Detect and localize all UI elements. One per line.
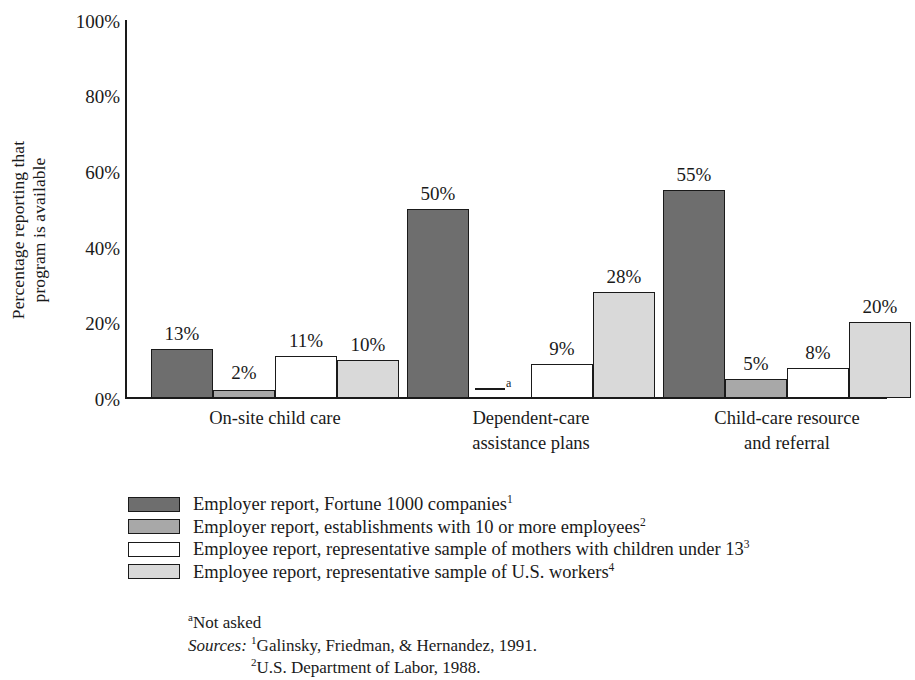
legend-swatch-series-0 [128,497,180,512]
bar-label-g0-s0: 13% [141,324,223,343]
bar-label-g0-s1: 2% [203,363,285,382]
category-2-line-2: and referral [649,431,915,456]
legend-swatch-series-1 [128,519,180,534]
y-tick-0: 0% [4,390,120,409]
legend-label-series-2-text: Employee report, representative sample o… [193,539,744,559]
legend-item-employer-establishments: Employer report, establishments with 10 … [128,516,888,539]
not-asked-superscript: a [506,377,511,389]
footnote-sources-line-1: Sources: 1Galinsky, Friedman, & Hernande… [188,635,888,658]
legend-superscript-series-3: 4 [609,561,615,573]
legend-superscript-series-0: 1 [507,493,513,505]
bar-label-g2-s2: 8% [777,343,859,362]
y-tick-100: 100% [4,12,120,31]
bar-g0-s1 [213,390,275,398]
footnote-source-2-text: U.S. Department of Labor, 1988. [257,658,481,677]
chart-footnotes: aNot asked Sources: 1Galinsky, Friedman,… [188,612,888,680]
footnote-source-1-text: Galinsky, Friedman, & Hernandez, 1991. [257,636,537,655]
y-tick-80: 80% [4,87,120,106]
bar-g0-s3 [337,360,399,398]
bar-g1-s2 [531,364,593,398]
y-tick-20: 20% [4,314,120,333]
not-asked-rule [475,388,505,390]
legend-label-series-3-text: Employee report, representative sample o… [193,562,609,582]
bar-label-g1-s3: 28% [583,267,665,286]
category-1-line-1: Dependent-care [393,406,669,431]
chart-legend: Employer report, Fortune 1000 companies1… [128,493,888,583]
legend-label-series-0: Employer report, Fortune 1000 companies1 [193,494,513,514]
bar-label-g2-s0: 55% [653,165,735,184]
category-label-dependent-care-assistance-plans: Dependent-care assistance plans [393,406,669,456]
bar-label-g0-s3: 10% [327,335,409,354]
footnote-not-asked-text: Not asked [193,613,261,632]
legend-swatch-series-3 [128,564,180,579]
legend-item-employee-us-workers: Employee report, representative sample o… [128,561,888,584]
footnote-sources-label: Sources: [188,636,247,655]
legend-superscript-series-2: 3 [744,538,750,550]
bar-g1-s0 [407,209,469,398]
legend-label-series-2: Employee report, representative sample o… [193,539,749,559]
bar-g1-s1-not-asked-marker: a [469,384,531,398]
footnote-sources-line-2: 2U.S. Department of Labor, 1988. [188,657,888,680]
category-2-line-1: Child-care resource [649,406,915,431]
bar-label-g1-s0: 50% [397,184,479,203]
y-axis-tick-labels: 100% 80% 60% 40% 20% 0% [0,0,120,420]
legend-label-series-1: Employer report, establishments with 10 … [193,517,646,537]
legend-item-employee-mothers: Employee report, representative sample o… [128,538,888,561]
category-0-line-1: On-site child care [137,406,413,431]
category-label-child-care-resource-and-referral: Child-care resource and referral [649,406,915,456]
legend-label-series-3: Employee report, representative sample o… [193,562,614,582]
bar-label-g1-s2: 9% [521,339,603,358]
y-tick-60: 60% [4,163,120,182]
legend-label-series-0-text: Employer report, Fortune 1000 companies [193,494,507,514]
category-label-on-site-child-care: On-site child care [137,406,413,431]
legend-item-employer-fortune-1000: Employer report, Fortune 1000 companies1 [128,493,888,516]
legend-swatch-series-2 [128,542,180,557]
plot-area: 13% 2% 11% 10% a 50% 9% 28% 55% 5% 8% 20… [127,20,887,398]
legend-superscript-series-1: 2 [640,516,646,528]
x-axis-category-labels: On-site child care Dependent-care assist… [127,406,887,468]
bar-chart: Percentage reporting that program is ava… [0,0,899,470]
footnote-not-asked: aNot asked [188,612,888,635]
y-tick-40: 40% [4,239,120,258]
bar-g2-s1 [725,379,787,398]
bar-label-g2-s3: 20% [839,297,915,316]
category-1-line-2: assistance plans [393,431,669,456]
legend-label-series-1-text: Employer report, establishments with 10 … [193,517,640,537]
